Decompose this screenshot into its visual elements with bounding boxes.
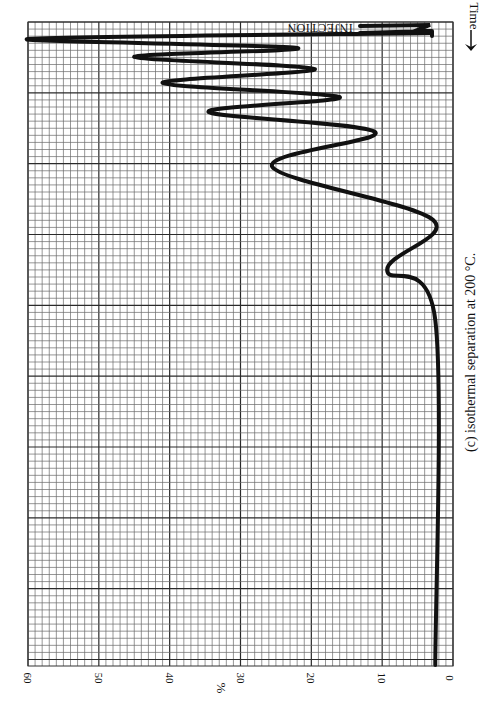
time-axis-label: Time <box>466 3 482 30</box>
tick-label-50: 50 <box>92 673 104 684</box>
tick-label-0: 0 <box>444 675 456 681</box>
tick-label-10: 10 <box>376 673 388 684</box>
injection-label: INJECTION <box>287 20 353 35</box>
figure-caption: (c) isothermal separation at 200 °C. <box>463 253 479 452</box>
tick-label-20: 20 <box>305 673 317 684</box>
chromatogram-trace <box>27 33 439 665</box>
percent-axis-label: % <box>213 683 229 694</box>
tick-label-40: 40 <box>163 673 175 684</box>
time-arrow-icon <box>465 30 477 51</box>
tick-label-60: 60 <box>22 673 34 684</box>
chromatogram-chart <box>0 0 499 712</box>
tick-label-30: 30 <box>234 673 246 684</box>
